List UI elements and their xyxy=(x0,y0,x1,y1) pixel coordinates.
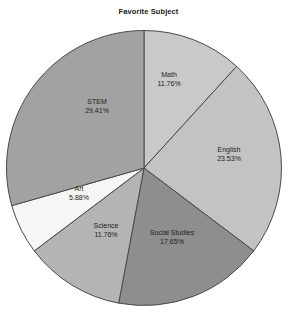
pie-chart-figure: Favorite Subject Math11.76%English23.53%… xyxy=(0,0,297,319)
pie-slices-group xyxy=(6,30,281,305)
pie-chart-canvas xyxy=(0,0,297,319)
